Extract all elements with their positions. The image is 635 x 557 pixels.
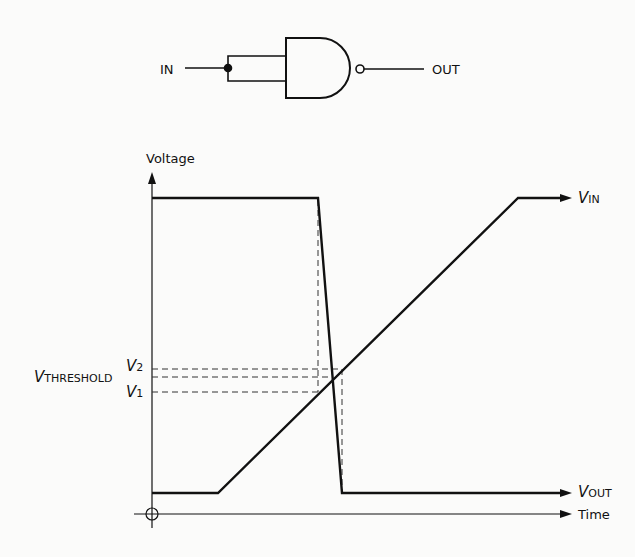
input-b-wire — [228, 68, 286, 81]
reference-lines — [152, 200, 342, 493]
v2-label: V2 — [126, 359, 143, 374]
gate-output-label: OUT — [432, 63, 460, 76]
vth-label: VTHRESHOLD — [34, 370, 112, 385]
gate-input-label: IN — [160, 63, 174, 76]
diagram-graphics — [0, 0, 635, 557]
vout-subscript: OUT — [588, 487, 611, 500]
vout-arrow-icon — [560, 489, 572, 497]
axes — [134, 172, 572, 528]
and-body — [286, 38, 350, 98]
inversion-bubble — [356, 65, 364, 73]
nand-gate-schematic — [185, 38, 424, 98]
vth-subscript: THRESHOLD — [44, 372, 112, 385]
v1-label: V1 — [126, 385, 143, 400]
nand-threshold-diagram: IN OUT Voltage Time VIN VOUT V2 VTHRESHO… — [0, 0, 635, 557]
v1-symbol: V — [126, 383, 136, 401]
v2-subscript: 2 — [136, 361, 143, 374]
v1-subscript: 1 — [136, 387, 143, 400]
x-axis-label: Time — [578, 508, 610, 521]
vin-trace — [152, 198, 563, 493]
vout-label: VOUT — [578, 485, 612, 500]
vin-label: VIN — [578, 191, 600, 206]
input-a-wire — [228, 56, 286, 68]
vin-subscript: IN — [588, 193, 599, 206]
y-axis-label: Voltage — [146, 152, 195, 165]
y-axis-arrow-icon — [148, 172, 156, 184]
vin-arrow-icon — [560, 194, 572, 202]
vout-symbol: V — [578, 483, 588, 501]
x-axis-arrow-icon — [560, 510, 572, 518]
vin-symbol: V — [578, 189, 588, 207]
signal-traces — [152, 194, 572, 497]
vout-trace — [152, 198, 563, 493]
v2-symbol: V — [126, 357, 136, 375]
vth-symbol: V — [34, 368, 44, 386]
